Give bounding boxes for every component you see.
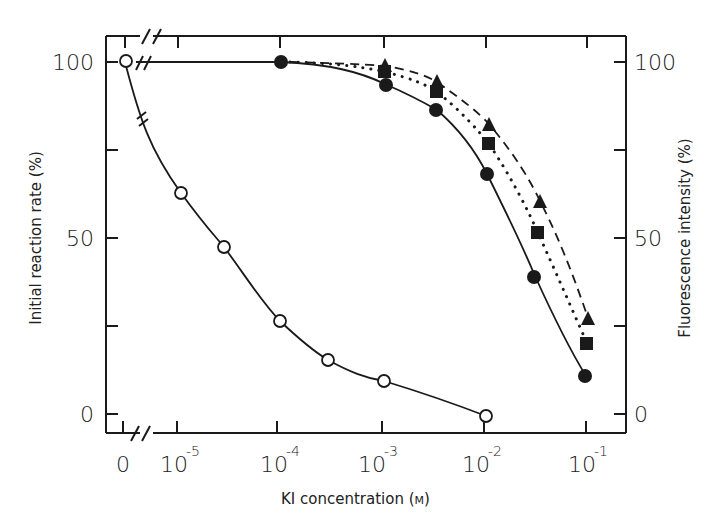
svg-text:10: 10 (568, 452, 596, 477)
filled-circle-marker (480, 167, 494, 181)
svg-text:10: 10 (160, 452, 188, 477)
svg-text:10: 10 (260, 452, 288, 477)
svg-text:10: 10 (358, 452, 386, 477)
svg-text:-4: -4 (286, 443, 300, 459)
filled-circle-marker (379, 78, 393, 92)
filled-square-marker (580, 337, 593, 350)
x-tick-1e-1: 10 -1 (568, 443, 608, 477)
open-circle-marker (322, 354, 334, 366)
open-circle-marker (175, 187, 187, 199)
x-tick-0: 0 (116, 452, 130, 477)
y-right-ticks (614, 62, 626, 414)
y-left-ticks (106, 62, 118, 414)
series-triangles-dashed (290, 58, 595, 325)
y-right-axis-title: Fluorescence intensity (%) (676, 138, 694, 337)
filled-triangle-marker (533, 194, 547, 208)
x-axis-break-icon (131, 29, 161, 441)
filled-triangle-marker (482, 117, 496, 131)
svg-text:-3: -3 (384, 443, 398, 459)
plot-frame (106, 36, 626, 433)
y-left-axis-title: Initial reaction rate (%) (27, 151, 45, 324)
series-filled-circles-solid (274, 55, 592, 383)
filled-circle-marker (527, 270, 541, 284)
series-squares-dotted (290, 62, 593, 350)
filled-square-marker (378, 65, 391, 78)
y-right-tick-100: 100 (634, 50, 676, 75)
svg-text:-5: -5 (186, 443, 200, 459)
open-circle-marker (120, 55, 132, 67)
y-right-tick-50: 50 (634, 226, 662, 251)
filled-square-marker (430, 85, 443, 98)
open-circle-marker (274, 315, 286, 327)
filled-circle-marker (578, 369, 592, 383)
filled-square-marker (531, 226, 544, 239)
x-ticks-bottom (123, 421, 586, 433)
x-ticks-top (125, 36, 587, 48)
filled-triangle-marker (581, 311, 595, 325)
open-circle-marker (480, 410, 492, 422)
filled-square-marker (482, 137, 495, 150)
x-tick-1e-2: 10 -2 (462, 443, 502, 477)
svg-text:-2: -2 (488, 443, 502, 459)
open-circle-marker (218, 241, 230, 253)
y-left-tick-0: 0 (80, 402, 94, 427)
y-left-tick-100: 100 (52, 50, 94, 75)
y-left-tick-50: 50 (66, 226, 94, 251)
x-tick-1e-3: 10 -3 (358, 443, 398, 477)
svg-text:-1: -1 (594, 443, 608, 459)
chart: 100 50 0 100 50 0 0 10 -5 10 -4 10 -3 10… (0, 0, 721, 529)
y-right-tick-0: 0 (634, 402, 648, 427)
x-axis-title: KI concentration (M) (281, 490, 430, 508)
y-axis-break-on-curve-icon (136, 56, 151, 126)
filled-circle-marker (429, 103, 443, 117)
open-circle-marker (378, 375, 390, 387)
filled-circle-marker (274, 55, 288, 69)
x-tick-1e-5: 10 -5 (160, 443, 200, 477)
svg-text:10: 10 (462, 452, 490, 477)
x-tick-1e-4: 10 -4 (260, 443, 300, 477)
